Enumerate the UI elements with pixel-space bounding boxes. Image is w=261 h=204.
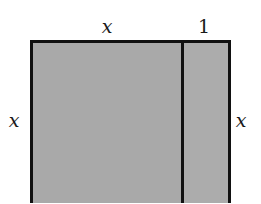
area-model-diagram: x 1 x x <box>0 0 261 203</box>
left-height-label-x: x <box>9 109 20 131</box>
square-region <box>32 42 183 204</box>
strip-region <box>183 42 230 204</box>
top-width-label-1: 1 <box>198 15 210 37</box>
top-width-label-x: x <box>102 15 113 37</box>
right-height-label-x: x <box>236 109 247 131</box>
